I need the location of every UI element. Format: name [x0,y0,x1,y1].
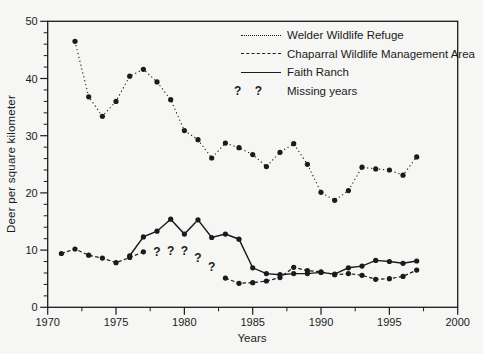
legend-item-chaparral: Chaparral Wildlife Management Area [233,45,475,64]
data-point-marker [223,141,228,146]
missing-year-mark: ? [208,260,215,274]
legend-label-chaparral: Chaparral Wildlife Management Area [287,48,475,60]
data-point-marker [250,152,255,157]
data-point-marker [154,79,159,84]
data-point-marker [277,272,282,277]
data-point-marker [291,141,296,146]
data-point-marker [59,251,64,256]
data-point-marker [346,265,351,270]
data-point-marker [400,261,405,266]
data-point-marker [373,166,378,171]
data-point-marker [209,235,214,240]
data-point-marker [236,145,241,150]
data-point-marker [141,67,146,72]
data-point-marker [346,271,351,276]
data-point-marker [332,198,337,203]
legend-item-welder: Welder Wildlife Refuge [233,26,475,45]
question-marks-swatch: ? ? [233,84,287,98]
data-point-marker [223,232,228,237]
data-point-marker [168,97,173,102]
x-tick-label: 2000 [445,316,469,328]
missing-year-mark: ? [181,244,188,258]
data-point-marker [332,272,337,277]
data-point-marker [182,232,187,237]
legend-label-faith-ranch: Faith Ranch [287,66,349,78]
x-tick-label: 1985 [240,316,264,328]
data-point-marker [182,128,187,133]
data-point-marker [86,94,91,99]
deer-density-figure: 010203040501970197519801985199019952000?… [0,0,483,354]
x-tick-label: 1980 [172,316,196,328]
dashed-line-swatch [233,53,287,54]
data-point-marker [127,74,132,79]
data-point-marker [387,259,392,264]
data-point-marker [373,277,378,282]
data-point-marker [72,39,77,44]
data-point-marker [414,258,419,263]
data-point-marker [359,165,364,170]
legend-label-welder: Welder Wildlife Refuge [287,29,404,41]
data-point-marker [414,154,419,159]
data-point-marker [346,188,351,193]
y-tick-label: 20 [25,187,37,199]
x-tick-label: 1975 [104,316,128,328]
missing-year-mark: ? [167,244,174,258]
data-point-marker [141,249,146,254]
data-point-marker [100,114,105,119]
data-point-marker [168,217,173,222]
x-tick-label: 1970 [35,316,59,328]
data-point-marker [100,256,105,261]
data-point-marker [359,264,364,269]
data-point-marker [359,273,364,278]
x-tick-label: 1990 [309,316,333,328]
data-point-marker [113,260,118,265]
legend-item-missing-years: ? ? Missing years [233,82,475,101]
data-point-marker [86,253,91,258]
data-point-marker [250,265,255,270]
data-point-marker [72,246,77,251]
data-point-marker [305,271,310,276]
dotted-line-swatch [233,35,287,36]
data-point-marker [264,271,269,276]
legend-item-faith-ranch: Faith Ranch [233,63,475,82]
y-tick-label: 10 [25,244,37,256]
missing-year-mark: ? [194,251,201,265]
x-tick-label: 1995 [377,316,401,328]
data-point-marker [195,137,200,142]
data-point-marker [113,99,118,104]
y-tick-label: 30 [25,130,37,142]
data-point-marker [414,268,419,273]
legend-label-missing-years: Missing years [287,85,357,97]
missing-year-mark: ? [153,245,160,259]
data-point-marker [277,150,282,155]
data-point-marker [264,278,269,283]
data-point-marker [305,162,310,167]
data-point-marker [236,281,241,286]
data-point-marker [400,274,405,279]
x-axis-title: Years [112,332,392,344]
data-point-marker [223,276,228,281]
data-point-marker [250,280,255,285]
solid-line-swatch [233,72,287,73]
data-point-marker [318,190,323,195]
data-point-marker [318,270,323,275]
y-tick-label: 0 [32,301,38,313]
y-tick-label: 50 [25,15,37,27]
data-point-marker [291,265,296,270]
y-axis-title: Deer per square kilometer [5,64,17,264]
data-point-marker [195,217,200,222]
data-point-marker [387,167,392,172]
data-point-marker [127,253,132,258]
legend: Welder Wildlife Refuge Chaparral Wildlif… [233,26,475,100]
data-point-marker [236,237,241,242]
data-point-marker [154,229,159,234]
data-point-marker [373,258,378,263]
data-point-marker [209,155,214,160]
data-point-marker [387,276,392,281]
data-point-marker [291,271,296,276]
data-point-marker [400,173,405,178]
data-point-marker [264,164,269,169]
data-point-marker [141,234,146,239]
y-tick-label: 40 [25,73,37,85]
